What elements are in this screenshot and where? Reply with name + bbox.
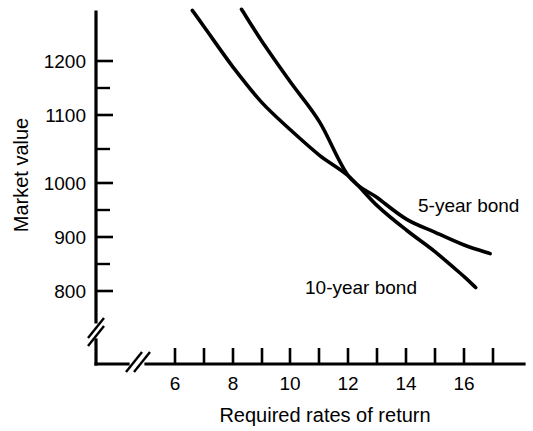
x-tick-label-6: 6 [170, 373, 181, 394]
x-tick-label-12: 12 [337, 373, 358, 394]
y-axis-title: Market value [10, 118, 32, 233]
chart-figure: 1200 1100 1000 900 800 6 8 10 12 14 16 [0, 0, 533, 431]
x-axis-title: Required rates of return [219, 404, 430, 426]
y-tick-label-1100: 1100 [45, 105, 86, 126]
y-tick-label-800: 800 [54, 281, 86, 302]
series-label-10-year-bond: 10-year bond [305, 277, 417, 298]
y-tick-label-1200: 1200 [44, 51, 86, 72]
y-tick-label-1000: 1000 [44, 173, 86, 194]
series-label-5-year-bond: 5-year bond [418, 195, 519, 216]
price-yield-chart: 1200 1100 1000 900 800 6 8 10 12 14 16 [0, 0, 533, 431]
y-tick-label-900: 900 [54, 227, 86, 248]
x-tick-label-10: 10 [279, 373, 300, 394]
x-tick-label-14: 14 [395, 373, 417, 394]
x-tick-label-8: 8 [228, 373, 239, 394]
x-tick-label-16: 16 [453, 373, 474, 394]
